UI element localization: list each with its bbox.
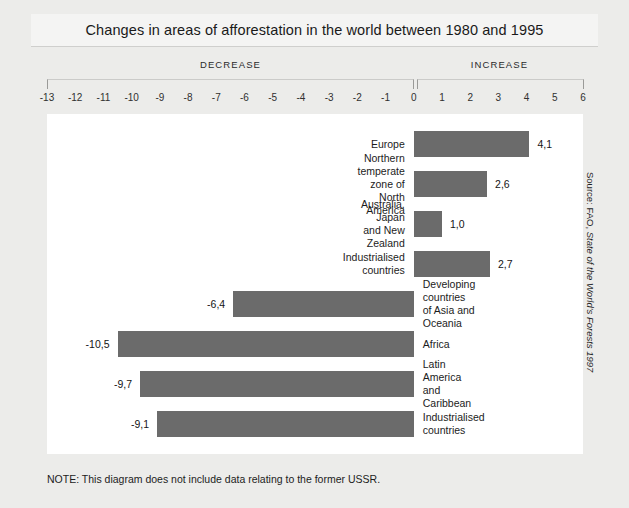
bar-row: Latin America and Caribbean-9,7: [47, 364, 583, 404]
bar-row: Africa-10,5: [47, 324, 583, 364]
x-tick-neg1: -1: [371, 92, 401, 103]
bar[interactable]: Northern temperate zone of North America…: [414, 171, 487, 197]
x-tick-6: 6: [568, 92, 598, 103]
x-tick-neg6: -6: [229, 92, 259, 103]
bar-value-label: -10,5: [86, 338, 118, 350]
bar[interactable]: Industrialised countries2,7: [414, 251, 490, 277]
chart-note: NOTE: This diagram does not include data…: [47, 473, 380, 485]
bar-row: Australia, Japan and New Zealand1,0: [47, 204, 583, 244]
bar-value-label: 2,7: [490, 258, 513, 270]
source-title: State of the World's Forests 1997: [585, 232, 596, 373]
axis-bracket-decrease: [47, 79, 414, 89]
chart-figure: Changes in areas of afforestation in the…: [0, 0, 629, 508]
bar-category-label: Australia, Japan and New Zealand: [361, 198, 414, 250]
x-axis-ticks: -13-12-11-10-9-8-7-6-5-4-3-2-10123456: [0, 92, 629, 108]
x-tick-4: 4: [512, 92, 542, 103]
x-tick-neg3: -3: [314, 92, 344, 103]
bar-row: Northern temperate zone of North America…: [47, 164, 583, 204]
bar[interactable]: Latin America and Caribbean-9,7: [140, 371, 414, 397]
x-tick-1: 1: [427, 92, 457, 103]
bar[interactable]: Africa-10,5: [118, 331, 414, 357]
x-tick-3: 3: [483, 92, 513, 103]
x-tick-neg11: -11: [88, 92, 118, 103]
bar[interactable]: Industrialised countries-9,1: [157, 411, 414, 437]
x-tick-neg10: -10: [117, 92, 147, 103]
x-tick-neg12: -12: [60, 92, 90, 103]
x-tick-neg5: -5: [258, 92, 288, 103]
axis-band-decrease: DECREASE: [47, 59, 414, 70]
x-tick-neg2: -2: [342, 92, 372, 103]
bar-value-label: 1,0: [442, 218, 465, 230]
page-title: Changes in areas of afforestation in the…: [86, 22, 544, 38]
bar-category-label: Developing countries of Asia and Oceania: [414, 278, 476, 330]
bar-row: Europe4,1: [47, 124, 583, 164]
x-tick-neg4: -4: [286, 92, 316, 103]
x-tick-neg7: -7: [201, 92, 231, 103]
bar-value-label: -9,1: [131, 418, 157, 430]
bar-value-label: -6,4: [207, 298, 233, 310]
bar[interactable]: Europe4,1: [414, 131, 530, 157]
x-tick-neg9: -9: [145, 92, 175, 103]
bar-value-label: 4,1: [529, 138, 552, 150]
bar-value-label: 2,6: [487, 178, 510, 190]
bar-row: Industrialised countries-9,1: [47, 404, 583, 444]
bar-category-label: Industrialised countries: [414, 411, 485, 437]
bar-row: Industrialised countries2,7: [47, 244, 583, 284]
x-tick-2: 2: [455, 92, 485, 103]
x-tick-neg8: -8: [173, 92, 203, 103]
source-credit: Source: FAO, State of the World's Forest…: [585, 172, 596, 372]
axis-band-increase: INCREASE: [416, 59, 583, 70]
source-prefix: Source: FAO,: [585, 172, 596, 232]
bar[interactable]: Australia, Japan and New Zealand1,0: [414, 211, 442, 237]
bar-category-label: Latin America and Caribbean: [414, 358, 471, 410]
plot-area: Europe4,1Northern temperate zone of Nort…: [47, 114, 583, 454]
axis-bracket-increase: [417, 79, 584, 89]
chart-title-bar: Changes in areas of afforestation in the…: [31, 14, 598, 47]
bar-category-label: Industrialised countries: [343, 251, 414, 277]
bar-row: Developing countries of Asia and Oceania…: [47, 284, 583, 324]
bar[interactable]: Developing countries of Asia and Oceania…: [233, 291, 414, 317]
x-tick-5: 5: [540, 92, 570, 103]
bar-value-label: -9,7: [114, 378, 140, 390]
bar-category-label: Europe: [371, 138, 414, 151]
x-tick-neg13: -13: [32, 92, 62, 103]
x-tick-0: 0: [399, 92, 429, 103]
bar-category-label: Africa: [414, 338, 450, 351]
